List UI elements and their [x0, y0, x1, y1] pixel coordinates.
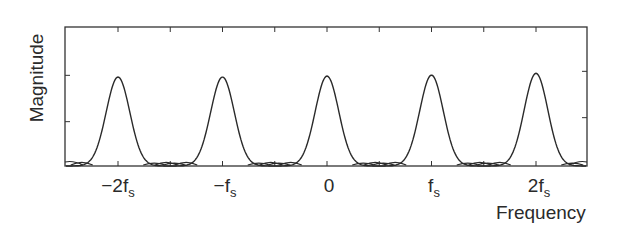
y-axis-label: Magnitude	[26, 34, 48, 123]
x-tick-label-minus-fs: −fs	[214, 175, 237, 200]
x-tick-label-2fs: 2fs	[528, 175, 550, 200]
side-lobes	[65, 161, 587, 165]
x-tick-label-minus-2fs: −2fs	[101, 175, 134, 200]
spectrum-curve	[66, 73, 586, 166]
x-tick-label-zero: 0	[324, 175, 335, 200]
axes-frame	[65, 27, 587, 166]
x-axis-label: Frequency	[496, 202, 586, 224]
x-tick-label-fs: fs	[428, 175, 440, 200]
axis-ticks	[65, 27, 587, 166]
